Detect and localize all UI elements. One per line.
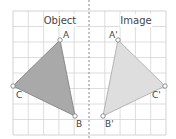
vertex-point [11, 84, 15, 88]
vertex-label: A [63, 30, 70, 40]
vertex-label: B [76, 119, 82, 129]
vertex-point [73, 114, 77, 118]
vertex-label: A' [109, 30, 118, 40]
object-title: Object [44, 15, 77, 26]
vertex-label: B' [105, 119, 114, 129]
vertex-label: C' [152, 90, 161, 100]
vertex-point [58, 38, 62, 42]
vertex-label: C [16, 90, 22, 100]
vertex-point [163, 84, 167, 88]
image-triangle [103, 40, 165, 116]
image-title: Image [120, 15, 151, 26]
object-triangle [13, 40, 75, 116]
reflection-diagram: ABCA'B'C' Object Image [0, 0, 176, 139]
vertex-point [101, 114, 105, 118]
